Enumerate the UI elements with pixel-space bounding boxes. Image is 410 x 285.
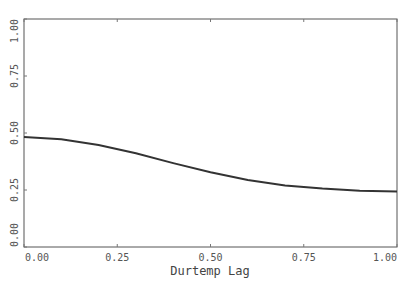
y-tick-label: 0.75 (9, 64, 20, 88)
x-tick-label: 1.00 (373, 252, 397, 263)
x-axis-label: Durtemp Lag (170, 264, 249, 278)
y-tick-label: 0.50 (9, 121, 20, 145)
plot-area (24, 19, 397, 247)
chart: 0.000.250.500.751.00 0.000.250.500.751.0… (0, 0, 410, 285)
y-tick-label: 0.00 (9, 223, 20, 247)
x-tick-label: 0.50 (198, 252, 222, 263)
y-tick-label: 1.00 (9, 19, 20, 43)
x-tick-label: 0.25 (105, 252, 129, 263)
x-tick-label: 0.75 (292, 252, 316, 263)
x-tick-label: 0.00 (25, 252, 49, 263)
y-tick-label: 0.25 (9, 178, 20, 202)
